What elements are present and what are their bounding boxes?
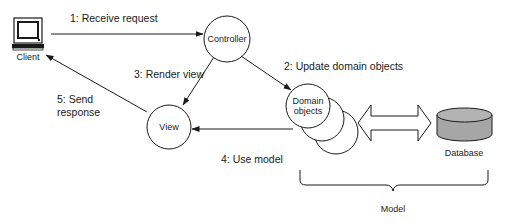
- database-label: Database: [445, 148, 484, 158]
- domain-label-line1: Domain: [292, 96, 323, 106]
- mvc-diagram: Client Controller View Domain objects Da…: [0, 0, 508, 223]
- domain-objects-node: Domain objects: [286, 84, 358, 154]
- edge-receive-request: 1: Receive request: [51, 12, 203, 34]
- computer-monitor-icon: [12, 18, 44, 50]
- edge-2-label: 2: Update domain objects: [284, 60, 403, 72]
- edge-4-label: 4: Use model: [221, 153, 283, 165]
- edge-update-domain-objects: 2: Update domain objects: [241, 56, 403, 90]
- edge-5-label-line1: 5: Send: [57, 93, 93, 105]
- edge-3-label: 3: Render view: [134, 68, 204, 80]
- controller-node: Controller: [204, 16, 250, 62]
- model-brace: Model: [300, 170, 488, 214]
- client-label: Client: [16, 52, 40, 62]
- database-node: Database: [437, 108, 492, 158]
- edge-5-label-line2: response: [57, 106, 100, 118]
- double-arrow-icon: [358, 105, 431, 141]
- view-node: View: [147, 105, 191, 149]
- domain-label-line2: objects: [294, 106, 323, 116]
- edge-render-view: 3: Render view: [134, 57, 214, 105]
- edge-use-model: 4: Use model: [192, 129, 293, 165]
- model-label: Model: [381, 204, 406, 214]
- edge-send-response: 5: Send response: [46, 55, 147, 118]
- view-label: View: [159, 122, 179, 132]
- database-cylinder-icon: [437, 108, 492, 141]
- edge-1-label: 1: Receive request: [70, 12, 158, 24]
- client-node: Client: [12, 18, 44, 62]
- controller-label: Controller: [207, 34, 246, 44]
